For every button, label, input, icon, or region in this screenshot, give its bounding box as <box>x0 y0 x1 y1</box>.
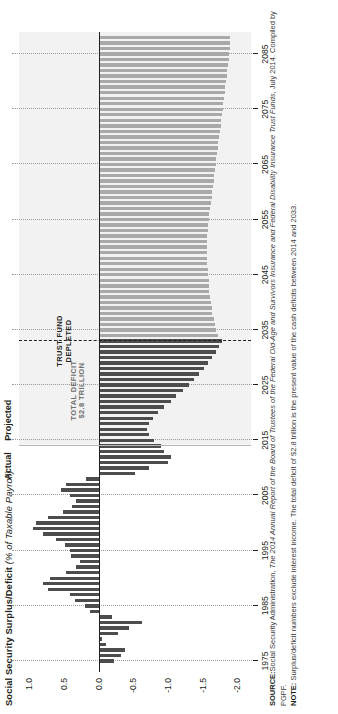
bar-2026 <box>99 378 195 381</box>
bar-2079 <box>99 85 226 88</box>
y-tick-label-neg0p5: -0.5 <box>128 678 138 714</box>
bar-2049 <box>99 251 208 254</box>
bar-1993 <box>80 560 99 563</box>
y-tick-label-0p5: 0.5 <box>59 678 69 714</box>
bar-2003 <box>72 505 98 508</box>
y-tick-label-1p0: 1.0 <box>24 678 34 714</box>
bar-2006 <box>61 488 99 491</box>
bar-1983 <box>99 615 113 618</box>
gridline-1985 <box>12 605 258 606</box>
gridline-2005 <box>12 494 258 495</box>
bar-2086 <box>99 47 230 50</box>
projected-label: Projected <box>3 400 13 441</box>
bar-2009 <box>99 472 135 475</box>
bar-1995 <box>70 549 98 552</box>
bar-2084 <box>99 58 229 61</box>
bar-2043 <box>99 284 210 287</box>
bar-2040 <box>99 301 211 304</box>
bar-1982 <box>99 621 142 624</box>
bar-1985 <box>85 604 99 607</box>
bar-2059 <box>99 196 212 199</box>
x-tick-2055 <box>253 219 258 220</box>
bar-2064 <box>99 168 215 171</box>
bar-2052 <box>99 234 208 237</box>
bar-2004 <box>76 499 99 502</box>
actual-label: Actual <box>3 452 13 480</box>
bar-2029 <box>99 361 208 364</box>
bar-1999 <box>33 527 99 530</box>
bar-2020 <box>99 411 159 414</box>
plot-area: TRUST FUND DEPLETED TOTAL DEFICIT $2.8 T… <box>19 32 251 672</box>
bar-2050 <box>99 245 208 248</box>
bar-2022 <box>99 400 171 403</box>
bar-1984 <box>90 610 98 613</box>
bar-2034 <box>99 334 218 337</box>
bar-1991 <box>66 571 99 574</box>
bar-2019 <box>99 417 153 420</box>
bar-2088 <box>99 36 231 39</box>
bar-1986 <box>75 599 99 602</box>
bar-2051 <box>99 240 208 243</box>
bar-2024 <box>99 389 183 392</box>
bar-1980 <box>99 632 118 635</box>
x-tick-2005 <box>253 494 258 495</box>
note-label: NOTE: <box>289 683 298 706</box>
bar-2082 <box>99 69 228 72</box>
bar-2069 <box>99 141 219 144</box>
bar-2070 <box>99 135 220 138</box>
bar-2083 <box>99 63 229 66</box>
gridline-1995 <box>12 550 258 551</box>
x-tick-2015 <box>253 439 258 440</box>
trust-fund-depleted-line <box>19 340 251 341</box>
chart-figure: Social Security Surplus/Deficit (% of Ta… <box>0 0 338 714</box>
bar-2023 <box>99 394 177 397</box>
bar-2048 <box>99 257 208 260</box>
bar-2055 <box>99 218 209 221</box>
actual-projected-divider <box>19 445 251 446</box>
note-text: Surplus/deficit numbers exclude interest… <box>289 204 298 681</box>
x-tick-2085 <box>253 53 258 54</box>
y-tick-label-neg2p0: -2.0 <box>232 678 242 714</box>
bar-1997 <box>56 538 99 541</box>
x-tick-1985 <box>253 605 258 606</box>
bar-2067 <box>99 152 217 155</box>
source-text: Social Security Administration, <box>268 568 277 671</box>
note-line: NOTE: Surplus/deficit numbers exclude in… <box>289 6 300 706</box>
bar-2047 <box>99 262 208 265</box>
y-tick-label-neg1p5: -1.5 <box>198 678 208 714</box>
bar-2063 <box>99 174 215 177</box>
bar-2068 <box>99 146 218 149</box>
page-title: Social Security Surplus/Deficit (% of Ta… <box>3 471 14 706</box>
x-tick-2045 <box>253 274 258 275</box>
bar-2058 <box>99 201 211 204</box>
bar-2041 <box>99 295 210 298</box>
bar-2000 <box>36 521 98 524</box>
bar-2075 <box>99 108 223 111</box>
title-main: Social Security Surplus/Deficit <box>3 567 14 706</box>
bar-2031 <box>99 350 217 353</box>
x-tick-1975 <box>253 660 258 661</box>
bar-2035 <box>99 328 217 331</box>
x-tick-2025 <box>253 384 258 385</box>
bar-2066 <box>99 157 217 160</box>
bar-1981 <box>99 626 129 629</box>
bar-2007 <box>66 483 99 486</box>
bar-2017 <box>99 428 147 431</box>
bar-2057 <box>99 207 210 210</box>
bar-1989 <box>43 582 99 585</box>
bar-2062 <box>99 179 214 182</box>
source-line: SOURCE:Social Security Administration, T… <box>268 6 289 706</box>
total-deficit-annotation: TOTAL DEFICIT $2.8 TRILLION <box>70 346 88 436</box>
actual-band <box>19 446 251 672</box>
bar-2036 <box>99 323 215 326</box>
bar-1987 <box>70 593 99 596</box>
bar-2085 <box>99 52 229 55</box>
bar-2039 <box>99 306 212 309</box>
bar-2032 <box>99 345 220 348</box>
bar-2061 <box>99 185 213 188</box>
bar-2010 <box>99 466 149 469</box>
zero-baseline <box>99 32 100 672</box>
footnotes: SOURCE:Social Security Administration, T… <box>268 6 300 706</box>
bar-2027 <box>99 372 199 375</box>
bar-1978 <box>99 643 106 646</box>
